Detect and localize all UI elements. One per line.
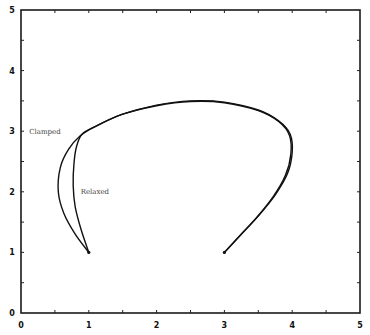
annotation-clamped: Clamped [29, 128, 61, 136]
series-clamped [58, 101, 292, 253]
axis-ticks [21, 10, 360, 313]
x-tick-label: 0 [18, 321, 24, 330]
x-tick-label: 4 [289, 321, 295, 330]
annotation-relaxed: Relaxed [81, 188, 110, 196]
x-tick-label: 5 [357, 321, 363, 330]
endpoint-marker [87, 251, 90, 254]
y-tick-label: 1 [9, 248, 15, 257]
y-tick-label: 5 [9, 6, 15, 15]
endpoint-marker [223, 251, 226, 254]
axes-frame [21, 10, 360, 313]
x-tick-label: 1 [86, 321, 92, 330]
x-tick-label: 2 [154, 321, 160, 330]
chart: 012345012345 ClampedRelaxed [0, 0, 370, 335]
plot-frame [21, 10, 360, 313]
y-tick-label: 4 [9, 67, 15, 76]
x-tick-label: 3 [222, 321, 228, 330]
y-tick-label: 3 [9, 127, 15, 136]
y-tick-label: 0 [9, 309, 15, 318]
y-tick-label: 2 [9, 188, 15, 197]
series-relaxed [73, 101, 291, 252]
tick-labels: 012345012345 [9, 6, 363, 330]
annotations: ClampedRelaxed [29, 128, 109, 195]
data-series [58, 101, 292, 254]
